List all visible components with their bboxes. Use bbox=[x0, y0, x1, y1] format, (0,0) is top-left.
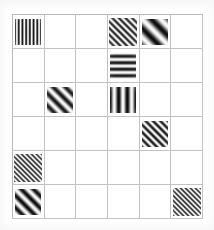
grid-cell-empty[interactable] bbox=[140, 83, 172, 117]
grid-cell-empty[interactable] bbox=[140, 49, 172, 83]
grid-cell-empty[interactable] bbox=[171, 49, 203, 83]
grid-cell-empty[interactable] bbox=[76, 185, 108, 219]
gabor-patch-container bbox=[110, 53, 136, 79]
grid-cell-empty[interactable] bbox=[140, 185, 172, 219]
gabor-patch-container bbox=[110, 87, 136, 113]
grid-cell-empty[interactable] bbox=[171, 151, 203, 185]
grid-cell-with-patch[interactable] bbox=[13, 185, 45, 219]
gabor-patch bbox=[47, 87, 73, 113]
grid-cell-empty[interactable] bbox=[13, 49, 45, 83]
grid-cell-with-patch[interactable] bbox=[108, 15, 140, 49]
gabor-patch bbox=[15, 19, 41, 45]
grid-cell-empty[interactable] bbox=[171, 15, 203, 49]
grid-cell-empty[interactable] bbox=[13, 83, 45, 117]
grid-cell-empty[interactable] bbox=[13, 117, 45, 151]
grid-cell-with-patch[interactable] bbox=[45, 83, 77, 117]
grid-cell-empty[interactable] bbox=[76, 117, 108, 151]
grid-cell-empty[interactable] bbox=[171, 117, 203, 151]
gabor-patch-container bbox=[15, 189, 41, 215]
gabor-patch bbox=[14, 154, 42, 182]
gabor-patch bbox=[110, 53, 136, 79]
grid-cell-empty[interactable] bbox=[140, 151, 172, 185]
grid-cell-empty[interactable] bbox=[171, 83, 203, 117]
grid-cell-empty[interactable] bbox=[76, 151, 108, 185]
gabor-patch bbox=[15, 189, 41, 215]
gabor-patch-container bbox=[109, 18, 137, 46]
gabor-patch bbox=[173, 188, 201, 216]
gabor-patch-container bbox=[142, 19, 168, 45]
grid-cell-empty[interactable] bbox=[45, 185, 77, 219]
grid-cell-empty[interactable] bbox=[45, 151, 77, 185]
grid-cell-with-patch[interactable] bbox=[140, 117, 172, 151]
grid-cell-empty[interactable] bbox=[108, 117, 140, 151]
grid-cell-with-patch[interactable] bbox=[13, 151, 45, 185]
gabor-grid-stimulus bbox=[0, 0, 214, 230]
gabor-patch bbox=[142, 19, 168, 45]
gabor-patch-container bbox=[142, 121, 168, 147]
grid-cell-empty[interactable] bbox=[108, 185, 140, 219]
grid-cell-empty[interactable] bbox=[76, 15, 108, 49]
grid-cell-empty[interactable] bbox=[76, 83, 108, 117]
grid-cell-empty[interactable] bbox=[76, 49, 108, 83]
gabor-patch-container bbox=[47, 87, 73, 113]
gabor-patch bbox=[109, 18, 137, 46]
grid-cell-empty[interactable] bbox=[45, 49, 77, 83]
grid-cell-empty[interactable] bbox=[45, 117, 77, 151]
gabor-patch bbox=[110, 87, 136, 113]
grid-cell-empty[interactable] bbox=[108, 151, 140, 185]
gabor-patch-container bbox=[15, 19, 41, 45]
grid-cell-with-patch[interactable] bbox=[13, 15, 45, 49]
grid-cell-empty[interactable] bbox=[45, 15, 77, 49]
grid-cell-with-patch[interactable] bbox=[171, 185, 203, 219]
gabor-patch bbox=[142, 121, 168, 147]
grid-cell-with-patch[interactable] bbox=[140, 15, 172, 49]
gabor-patch-container bbox=[14, 154, 42, 182]
grid-cell-with-patch[interactable] bbox=[108, 49, 140, 83]
grid-cell-with-patch[interactable] bbox=[108, 83, 140, 117]
gabor-patch-container bbox=[173, 188, 201, 216]
stimulus-grid bbox=[12, 14, 203, 219]
